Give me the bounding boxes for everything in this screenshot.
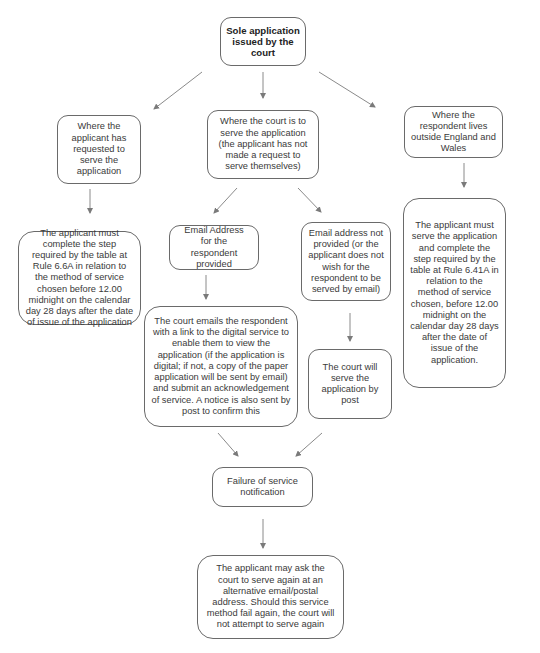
node-label: The applicant must serve the application… [410, 220, 499, 366]
arrow-court-serves-to-email-not-provided [298, 188, 321, 212]
node-label: The court emails the respondent with a l… [150, 316, 292, 417]
node-label: The applicant may ask the court to serve… [206, 563, 335, 630]
node-label: The applicant must complete the step req… [25, 228, 134, 329]
arrow-court-emails-to-failure [218, 433, 238, 456]
node-court-to-serve: Where the court is to serve the applicat… [207, 110, 319, 179]
node-sole-application-issued: Sole application issued by the court [220, 17, 306, 66]
node-label: The court will serve the application by … [317, 362, 383, 407]
node-applicant-must-rule-6-41a: The applicant must serve the application… [403, 198, 506, 388]
node-court-serves-by-post: The court will serve the application by … [308, 349, 392, 419]
node-label: Where the applicant has requested to ser… [66, 121, 132, 177]
node-email-address-not-provided: Email address not provided (or the appli… [301, 222, 391, 301]
node-email-address-provided: Email Address for the respondent provide… [169, 225, 259, 270]
node-applicant-may-ask-serve-again: The applicant may ask the court to serve… [197, 555, 344, 639]
arrow-court-serves-to-email-provided [214, 188, 237, 213]
node-label: Email address not provided (or the appli… [307, 228, 385, 295]
arrow-start-to-applicant-requested [154, 72, 202, 109]
arrow-court-post-to-failure [296, 433, 322, 456]
node-applicant-must-rule-6-6a: The applicant must complete the step req… [18, 231, 141, 325]
node-label: Email Address for the respondent provide… [178, 225, 250, 270]
arrow-start-to-respondent-outside [319, 72, 375, 107]
node-applicant-requested-to-serve: Where the applicant has requested to ser… [57, 115, 141, 184]
node-failure-of-service: Failure of service notification [212, 467, 313, 507]
node-label: Where the court is to serve the applicat… [216, 116, 310, 172]
node-respondent-outside-england-wales: Where the respondent lives outside Engla… [404, 106, 503, 158]
node-label: Failure of service notification [227, 476, 298, 498]
node-label: Sole application issued by the court [225, 25, 301, 59]
node-court-emails-respondent: The court emails the respondent with a l… [144, 306, 298, 427]
node-label: Where the respondent lives outside Engla… [411, 110, 496, 155]
